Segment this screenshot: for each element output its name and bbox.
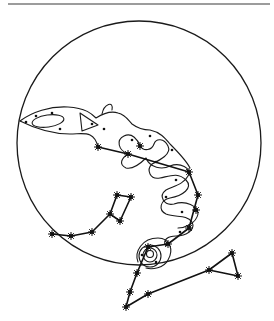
constellation-stars	[48, 142, 242, 311]
star-icon	[124, 150, 132, 158]
star-icon	[185, 224, 193, 232]
star-icon	[48, 230, 56, 238]
star-icon	[192, 206, 200, 214]
star-icon	[88, 228, 96, 236]
star-icon	[136, 142, 144, 150]
constellation-line-draco	[98, 147, 238, 307]
constellation-lines	[52, 147, 238, 307]
star-icon	[122, 303, 130, 311]
star-icon	[194, 191, 202, 199]
dragon-horn	[80, 113, 98, 131]
star-icon	[185, 168, 193, 176]
star-icon	[144, 243, 152, 251]
star-icon	[113, 191, 121, 199]
star-icon	[164, 240, 172, 248]
star-icon	[116, 217, 124, 225]
star-icon	[228, 249, 236, 257]
star-icon	[144, 290, 152, 298]
diagram-canvas	[0, 0, 274, 321]
star-icon	[126, 288, 134, 296]
star-icon	[133, 269, 141, 277]
star-icon	[127, 193, 135, 201]
dragon-head-outline	[20, 107, 190, 168]
star-icon	[94, 143, 102, 151]
star-icon	[67, 232, 75, 240]
star-icon	[106, 210, 114, 218]
star-icon	[234, 272, 242, 280]
dragon-jaw-outline	[20, 121, 98, 147]
star-icon	[205, 266, 213, 274]
dragon-constellation-diagram	[0, 0, 274, 321]
